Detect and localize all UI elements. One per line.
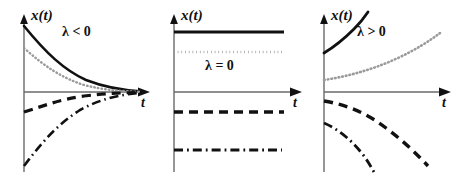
panel-lambda-negative: x(t) t λ < 0 [0, 0, 160, 178]
y-axis-arrowhead-icon [320, 14, 328, 24]
panel-lambda-positive: x(t) t λ > 0 [310, 0, 460, 178]
lambda-condition-label: λ = 0 [205, 58, 234, 74]
y-axis-label: x(t) [331, 7, 353, 24]
panel-lambda-zero-plot [160, 0, 310, 178]
x-axis-label: t [442, 95, 446, 111]
trajectory-dashdot [24, 93, 140, 166]
x-axis-label: t [141, 95, 145, 111]
lambda-condition-label: λ > 0 [357, 24, 386, 40]
trajectory-dotted [24, 48, 140, 92]
y-axis-arrowhead-icon [20, 14, 28, 24]
trajectory-dashdot [324, 123, 374, 172]
y-axis-arrowhead-icon [170, 14, 178, 24]
y-axis-label: x(t) [181, 7, 203, 24]
lambda-condition-label: λ < 0 [62, 24, 91, 40]
x-axis-label: t [293, 95, 297, 111]
exponential-solutions-figure: x(t) t λ < 0 x(t) t λ = 0 [0, 0, 460, 178]
panel-lambda-zero: x(t) t λ = 0 [160, 0, 310, 178]
y-axis-label: x(t) [31, 7, 53, 24]
